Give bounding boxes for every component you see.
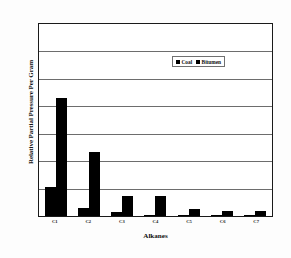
y-axis-title: Relative Partial Pressure Per Gram (27, 27, 35, 197)
x-tick-label-c3: C3 (105, 219, 139, 229)
legend-swatch-bitumen (196, 60, 200, 64)
bar-coal-c6 (211, 215, 222, 216)
x-tick-label-c2: C2 (72, 219, 106, 229)
x-tick-label-c5: C5 (172, 219, 206, 229)
bar-bitumen-c7 (255, 211, 266, 216)
bar-group-c4 (139, 24, 172, 216)
x-axis-tick-labels: C1C2C3C4C5C6C7 (38, 219, 273, 229)
bar-group-c3 (106, 24, 139, 216)
legend-label-coal: Coal (182, 59, 193, 65)
bar-coal-c5 (178, 215, 189, 216)
bar-bitumen-c5 (189, 209, 200, 216)
bar-bitumen-c6 (222, 211, 233, 216)
x-tick-label-c7: C7 (239, 219, 273, 229)
plot-area (38, 23, 273, 217)
bar-coal-c7 (244, 215, 255, 216)
bar-bitumen-c2 (89, 152, 100, 216)
chart-legend: CoalBitumen (172, 56, 225, 67)
bar-groups (39, 24, 272, 216)
legend-label-bitumen: Bitumen (202, 59, 221, 65)
x-axis-title: Alkanes (38, 232, 273, 240)
bar-group-c1 (39, 24, 72, 216)
bar-group-c2 (72, 24, 105, 216)
bar-group-c6 (205, 24, 238, 216)
bar-chart-figure: Relative Partial Pressure Per Gram C1C2C… (0, 0, 291, 258)
bar-coal-c2 (78, 208, 89, 216)
bar-group-c5 (172, 24, 205, 216)
x-tick-label-c1: C1 (38, 219, 72, 229)
bar-bitumen-c4 (155, 196, 166, 216)
legend-entry-bitumen: Bitumen (196, 59, 221, 65)
bar-coal-c1 (45, 187, 56, 216)
bar-bitumen-c1 (56, 98, 67, 216)
bar-group-c7 (239, 24, 272, 216)
x-tick-label-c6: C6 (206, 219, 240, 229)
x-tick-label-c4: C4 (139, 219, 173, 229)
bar-coal-c4 (144, 215, 155, 216)
legend-entry-coal: Coal (176, 59, 192, 65)
bar-bitumen-c3 (122, 196, 133, 216)
bar-coal-c3 (111, 212, 122, 216)
legend-swatch-coal (176, 60, 180, 64)
